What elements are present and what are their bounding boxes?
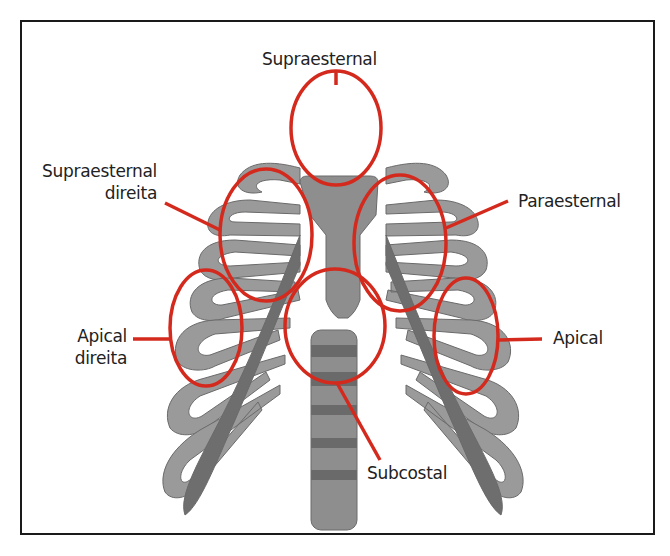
label-supraesternal: Supraesternal bbox=[262, 48, 377, 70]
label-supraesternal-direita-line1: Supraesternal bbox=[32, 160, 157, 182]
label-supraesternal-direita: Supraesternal direita bbox=[32, 160, 157, 204]
rib-cage-diagram bbox=[0, 0, 670, 556]
rib-cage-left bbox=[163, 163, 300, 515]
label-apical-direita-line2: direita bbox=[60, 347, 127, 369]
window-supraesternal[interactable] bbox=[291, 71, 381, 185]
label-apical-direita: Apical direita bbox=[60, 325, 127, 369]
label-subcostal: Subcostal bbox=[367, 462, 447, 484]
label-paraesternal: Paraesternal bbox=[518, 190, 621, 212]
label-apical: Apical bbox=[553, 327, 603, 349]
label-apical-direita-line1: Apical bbox=[60, 325, 127, 347]
label-supraesternal-direita-line2: direita bbox=[32, 182, 157, 204]
